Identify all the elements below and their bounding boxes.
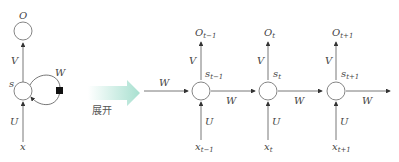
hidden-node xyxy=(14,82,32,100)
output-label: Ot+1 xyxy=(332,27,353,40)
delay-square-icon xyxy=(56,87,63,94)
folded-rnn: O V s W U x xyxy=(9,10,66,152)
w-label: W xyxy=(226,95,237,106)
v-label: V xyxy=(189,55,198,66)
u-label: U xyxy=(340,116,349,127)
v-label: V xyxy=(11,55,20,66)
hidden-label: st−1 xyxy=(205,68,223,81)
hidden-node xyxy=(192,82,210,100)
unfold-label: 展开 xyxy=(92,105,112,116)
unfolded-rnn: W Ot−1 V st−1 W U xt−1 Ot V st W U xt xyxy=(144,27,390,154)
u-label: U xyxy=(10,116,19,127)
step-t-plus-1: Ot+1 V st+1 W U xt+1 xyxy=(325,27,390,154)
rnn-unfold-diagram: O V s W U x 展开 W Ot−1 V st−1 W U xt−1 xyxy=(0,0,399,162)
big-arrow-icon xyxy=(88,80,140,106)
hidden-node xyxy=(259,82,277,100)
w-label: W xyxy=(294,95,305,106)
output-label: O xyxy=(19,10,27,21)
v-label: V xyxy=(257,55,266,66)
unfold-arrow: 展开 xyxy=(88,80,140,116)
recurrent-loop xyxy=(30,75,60,105)
step-t-minus-1: Ot−1 V st−1 W U xt−1 xyxy=(189,27,255,154)
output-node xyxy=(14,22,32,40)
step-t: Ot V st W U xt xyxy=(257,27,322,154)
output-label: Ot xyxy=(264,27,275,40)
v-label: V xyxy=(325,55,334,66)
hidden-node xyxy=(327,82,345,100)
input-label: xt+1 xyxy=(332,141,351,154)
input-label: xt xyxy=(264,141,273,154)
u-label: U xyxy=(272,116,281,127)
input-label: xt−1 xyxy=(195,141,214,154)
output-label: Ot−1 xyxy=(195,27,216,40)
incoming-w-label: W xyxy=(159,77,170,88)
w-label: W xyxy=(55,67,66,78)
hidden-label: st+1 xyxy=(341,68,359,81)
hidden-label: s xyxy=(9,78,14,89)
w-label: W xyxy=(362,95,373,106)
input-label: x xyxy=(20,141,26,152)
u-label: U xyxy=(205,116,214,127)
hidden-label: st xyxy=(273,68,281,81)
